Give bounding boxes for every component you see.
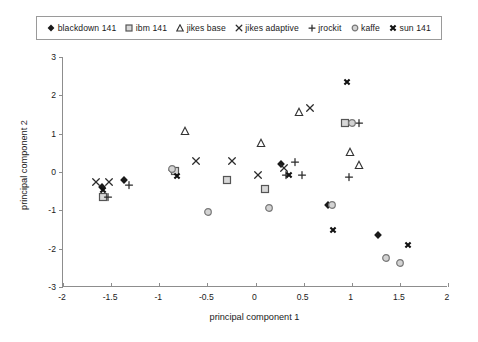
x-axis-tick <box>448 283 449 287</box>
data-point-jikes-adaptive <box>191 156 200 165</box>
chart-legend: blackdown 141ibm 141jikes basejikes adap… <box>36 16 442 40</box>
x-axis-tick-label: -1.5 <box>103 292 118 302</box>
data-point-jrockit <box>290 158 299 167</box>
data-point-jikes-base <box>257 138 266 147</box>
data-point-blackdown-141 <box>373 231 382 240</box>
data-point-ibm-141 <box>261 184 270 193</box>
y-axis-tick <box>59 210 63 211</box>
legend-item-ibm-141: ibm 141 <box>125 24 167 33</box>
open-square-icon <box>125 24 133 32</box>
data-point-sun-141 <box>329 226 337 234</box>
data-point-jikes-adaptive <box>228 156 237 165</box>
data-point-jikes-adaptive <box>306 104 315 113</box>
y-axis-tick <box>59 95 63 96</box>
data-point-jrockit <box>125 181 134 190</box>
x-axis-tick <box>256 283 257 287</box>
legend-label: kaffe <box>361 24 380 33</box>
y-axis-title: principal component 2 <box>19 65 29 265</box>
x-axis-tick <box>352 283 353 287</box>
x-axis-tick <box>63 283 64 287</box>
data-point-jikes-base <box>345 147 354 156</box>
x-cross-icon <box>235 24 243 32</box>
y-axis-tick-label: 2 <box>34 90 56 100</box>
x-axis-tick-label: 1.5 <box>393 292 405 302</box>
legend-item-sun-141: sun 141 <box>389 24 431 33</box>
y-axis-tick <box>59 134 63 135</box>
data-point-jrockit <box>355 119 364 128</box>
data-point-sun-141 <box>343 78 351 86</box>
data-point-sun-141 <box>404 241 412 249</box>
x-axis-tick-label: 1 <box>348 292 353 302</box>
x-axis-tick-label: -0.5 <box>199 292 214 302</box>
y-axis-tick <box>59 249 63 250</box>
plot-canvas <box>63 57 447 286</box>
x-axis-tick-label: -2 <box>58 292 66 302</box>
data-point-jrockit <box>297 171 306 180</box>
data-point-kaffe <box>327 201 336 210</box>
y-axis-tick-label: 1 <box>34 129 56 139</box>
data-point-jikes-base <box>355 160 364 169</box>
x-axis-title: principal component 1 <box>62 312 447 322</box>
legend-label: blackdown 141 <box>58 24 117 33</box>
data-point-kaffe <box>395 258 404 267</box>
legend-label: jrockit <box>318 24 341 33</box>
y-axis-tick-label: -3 <box>34 282 56 292</box>
legend-item-blackdown-141: blackdown 141 <box>47 24 116 33</box>
x-axis-tick <box>400 283 401 287</box>
legend-label: jikes adaptive <box>245 24 298 33</box>
plus-icon <box>308 24 316 32</box>
x-axis-tick-label: 2 <box>445 292 450 302</box>
bold-x-icon <box>389 24 397 32</box>
y-axis-tick <box>59 57 63 58</box>
filled-diamond-icon <box>47 24 55 32</box>
data-point-kaffe <box>204 207 213 216</box>
x-axis-tick <box>159 283 160 287</box>
x-axis-tick-label: 0 <box>252 292 257 302</box>
y-axis-tick-label: 0 <box>34 167 56 177</box>
y-axis-tick <box>59 287 63 288</box>
data-point-kaffe <box>264 204 273 213</box>
data-point-jikes-base <box>181 126 190 135</box>
legend-label: ibm 141 <box>136 24 167 33</box>
data-point-kaffe <box>382 254 391 263</box>
data-point-sun-141 <box>173 172 181 180</box>
open-circle-icon <box>351 24 359 32</box>
data-point-jikes-adaptive <box>254 170 263 179</box>
legend-label: sun 141 <box>399 24 430 33</box>
x-axis-tick <box>111 283 112 287</box>
data-point-kaffe <box>347 119 356 128</box>
legend-item-jikes-adaptive: jikes adaptive <box>235 24 299 33</box>
legend-item-jrockit: jrockit <box>308 24 342 33</box>
data-point-sun-141 <box>285 171 293 179</box>
x-axis-tick <box>207 283 208 287</box>
legend-item-kaffe: kaffe <box>351 24 380 33</box>
y-axis-tick-label: 3 <box>34 52 56 62</box>
legend-label: jikes base <box>187 24 226 33</box>
y-axis-tick-label: -2 <box>34 244 56 254</box>
data-point-jrockit <box>344 172 353 181</box>
y-axis-tick-label: -1 <box>34 205 56 215</box>
y-axis-tick <box>59 172 63 173</box>
x-axis-tick <box>304 283 305 287</box>
x-axis-tick-label: -1 <box>154 292 162 302</box>
legend-item-jikes-base: jikes base <box>176 24 226 33</box>
open-triangle-icon <box>176 24 184 32</box>
data-point-jikes-base <box>294 107 303 116</box>
data-point-ibm-141 <box>222 176 231 185</box>
x-axis-tick-label: 0.5 <box>297 292 309 302</box>
data-point-sun-141 <box>99 186 107 194</box>
plot-area <box>62 57 447 287</box>
